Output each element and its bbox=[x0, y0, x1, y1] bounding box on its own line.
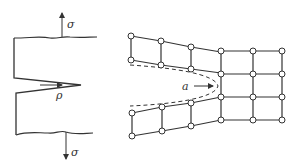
diagram-canvas: σ σ ρ a bbox=[0, 0, 297, 167]
stress-label-bottom: σ bbox=[71, 146, 79, 159]
specimen-bottom-boundary bbox=[16, 131, 93, 135]
specimen-outline bbox=[14, 38, 81, 135]
stress-label-top: σ bbox=[67, 18, 75, 31]
crack-length-label: a bbox=[182, 80, 189, 93]
specimen-top-boundary bbox=[14, 37, 97, 38]
notch-radius-label: ρ bbox=[55, 89, 63, 102]
notched-specimen: σ σ ρ bbox=[14, 13, 97, 159]
